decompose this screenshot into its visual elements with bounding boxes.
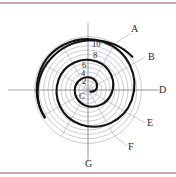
point-label-c: C xyxy=(79,91,85,101)
point-label-e: E xyxy=(147,117,153,128)
tick-label-10: 10 xyxy=(92,39,101,49)
point-label-b: B xyxy=(148,51,155,62)
polar-plot: 10 8 6 4 2 A B D E F G C xyxy=(0,0,176,177)
figure-frame: 10 8 6 4 2 A B D E F G C xyxy=(0,0,176,177)
point-label-a: A xyxy=(131,23,139,34)
tick-label-2: 2 xyxy=(82,76,86,86)
tick-label-8: 8 xyxy=(93,50,97,60)
point-label-f: F xyxy=(128,141,134,152)
point-label-d: D xyxy=(159,84,166,95)
point-label-g: G xyxy=(85,158,92,169)
